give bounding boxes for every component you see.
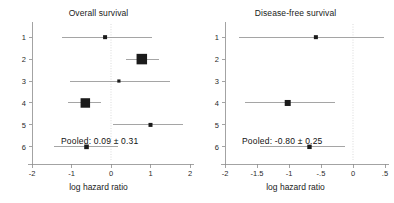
pooled-annotation: Pooled: 0.09 ± 0.31: [61, 136, 138, 146]
point-estimate-marker: [285, 100, 291, 106]
forest-row: [68, 98, 102, 108]
panel-overall-survival: Overall survival 123456-2-1012 log hazar…: [0, 0, 197, 203]
x-tick-label: 0: [109, 169, 113, 178]
y-tick-label: 2: [22, 55, 26, 64]
y-tick-label: 1: [215, 33, 219, 42]
pooled-annotation: Pooled: -0.80 ± 0.25: [242, 136, 323, 146]
panel-title: Overall survival: [0, 8, 197, 18]
y-tick-label: 4: [22, 99, 26, 108]
x-tick-label: -2: [222, 169, 229, 178]
y-tick-label: 1: [22, 33, 26, 42]
y-tick-label: 6: [215, 143, 219, 152]
y-tick-label: 4: [215, 99, 219, 108]
forest-row: [245, 100, 335, 106]
x-axis-title: log hazard ratio: [0, 182, 197, 192]
x-tick-label: 1: [148, 169, 152, 178]
point-estimate-marker: [81, 98, 91, 108]
y-tick-label: 6: [22, 143, 26, 152]
point-estimate-marker: [149, 123, 153, 127]
y-tick-label: 3: [22, 77, 26, 86]
x-tick-label: .5: [382, 169, 388, 178]
x-tick-label: -2: [29, 169, 36, 178]
forest-row: [126, 54, 160, 65]
x-tick-label: -.5: [317, 169, 326, 178]
forest-row: [70, 79, 171, 82]
point-estimate-marker: [103, 35, 107, 39]
y-tick-label: 5: [22, 121, 26, 130]
panel-disease-free-survival: Disease-free survival 123456-2-1.5-1-.50…: [197, 0, 394, 203]
point-estimate-marker: [314, 35, 318, 39]
x-tick-label: 0: [351, 169, 355, 178]
x-tick-label: 2: [188, 169, 192, 178]
x-tick-label: -1: [286, 169, 293, 178]
x-axis-title: log hazard ratio: [197, 182, 394, 192]
x-tick-label: -1.5: [251, 169, 264, 178]
forest-row: [62, 35, 153, 39]
panel-title: Disease-free survival: [197, 8, 394, 18]
point-estimate-marker: [117, 79, 120, 82]
y-tick-label: 5: [215, 121, 219, 130]
y-tick-label: 2: [215, 55, 219, 64]
y-tick-label: 3: [215, 77, 219, 86]
forest-row: [113, 123, 183, 127]
x-tick-label: -1: [68, 169, 75, 178]
point-estimate-marker: [137, 54, 148, 65]
forest-row: [239, 35, 384, 39]
forest-plot-figure: Overall survival 123456-2-1012 log hazar…: [0, 0, 394, 203]
